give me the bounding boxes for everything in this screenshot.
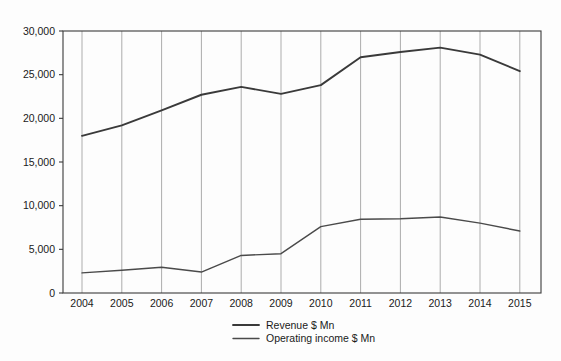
y-tick-label-10,000: 10,000 bbox=[23, 199, 55, 211]
legend-label-revenue: Revenue $ Mn bbox=[266, 319, 334, 331]
y-tick-label-15,000: 15,000 bbox=[23, 156, 55, 168]
x-tick-label-2009: 2009 bbox=[269, 297, 293, 309]
x-tick-label-2010: 2010 bbox=[309, 297, 333, 309]
line-chart: 05,00010,00015,00020,00025,00030,000 200… bbox=[0, 0, 561, 361]
x-tick-label-2011: 2011 bbox=[349, 297, 372, 309]
chart-container: 05,00010,00015,00020,00025,00030,000 200… bbox=[0, 0, 561, 361]
x-tick-label-2013: 2013 bbox=[429, 297, 453, 309]
y-tick-label-0: 0 bbox=[49, 287, 55, 299]
x-tick-label-2007: 2007 bbox=[190, 297, 214, 309]
series-line-revenue bbox=[82, 48, 520, 136]
legend-label-operating-income: Operating income $ Mn bbox=[266, 332, 375, 344]
x-tick-label-2015: 2015 bbox=[508, 297, 532, 309]
y-tick-label-30,000: 30,000 bbox=[23, 25, 55, 37]
data-series-group bbox=[82, 48, 520, 273]
x-tick-label-2014: 2014 bbox=[468, 297, 492, 309]
x-tick-label-2006: 2006 bbox=[150, 297, 174, 309]
plot-area-border bbox=[63, 31, 541, 293]
x-tick-label-2008: 2008 bbox=[230, 297, 254, 309]
x-tick-label-2005: 2005 bbox=[110, 297, 134, 309]
y-axis-ticks: 05,00010,00015,00020,00025,00030,000 bbox=[23, 25, 63, 299]
x-tick-label-2004: 2004 bbox=[70, 297, 94, 309]
series-line-operating-income bbox=[82, 217, 520, 273]
x-axis-tick-labels: 2004200520062007200820092010201120122013… bbox=[70, 297, 531, 309]
y-tick-label-20,000: 20,000 bbox=[23, 112, 55, 124]
y-tick-label-5,000: 5,000 bbox=[29, 243, 55, 255]
x-tick-label-2012: 2012 bbox=[389, 297, 413, 309]
vertical-gridlines bbox=[82, 31, 520, 293]
y-tick-label-25,000: 25,000 bbox=[23, 68, 55, 80]
chart-legend: Revenue $ MnOperating income $ Mn bbox=[233, 319, 375, 345]
